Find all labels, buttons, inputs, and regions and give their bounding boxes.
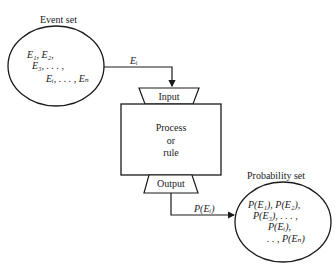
process-line-3: rule xyxy=(121,147,221,158)
output-label: Output xyxy=(146,178,196,189)
probability-set-line-3: P(Eᵢ), xyxy=(268,221,291,232)
event-set-title: Event set xyxy=(40,14,77,25)
diagram: Event set E₁, E₂, E₃, . . . , Eᵢ, . . . … xyxy=(0,0,336,266)
event-set-line-3: Eᵢ, . . . , Eₙ xyxy=(46,73,89,84)
probability-set-title: Probability set xyxy=(247,170,305,181)
probability-set-line-2: P(E₃), . . . , xyxy=(253,210,298,221)
probability-set-line-4: . . , P(Eₙ) xyxy=(267,233,305,244)
process-line-2: or xyxy=(121,135,221,146)
process-line-1: Process xyxy=(121,122,221,133)
event-to-input-arrow xyxy=(104,67,172,86)
event-set-line-2: E₃, . . . , xyxy=(32,60,64,71)
input-arrow-label: Eᵢ xyxy=(130,55,138,66)
probability-set-line-1: P(E₁), P(E₂), xyxy=(248,199,300,210)
event-set-line-1: E₁, E₂, xyxy=(27,49,54,60)
output-arrow-label: P(Eᵢ) xyxy=(194,203,214,214)
input-label: Input xyxy=(145,91,193,102)
